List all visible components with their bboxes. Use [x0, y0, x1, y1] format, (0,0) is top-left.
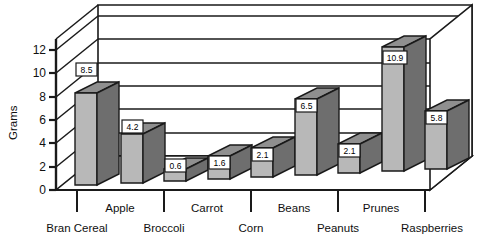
y-tick-label: 10: [33, 66, 47, 80]
bar-group-bran-cereal[interactable]: 8.5: [75, 63, 119, 185]
value-label: 5.8: [431, 113, 443, 123]
y-tick-label: 8: [39, 90, 46, 104]
bar-group-apple[interactable]: 4.2: [121, 120, 165, 183]
value-label: 10.9: [387, 53, 404, 63]
bar-group-raspberries[interactable]: 5.8: [425, 100, 469, 169]
bar-side: [447, 100, 469, 169]
bar-group-beans[interactable]: 6.5: [295, 88, 339, 175]
y-tick-label: 0: [39, 183, 46, 197]
value-label: 0.6: [170, 161, 182, 171]
bar-side: [317, 88, 339, 175]
y-tick-label: 12: [33, 43, 47, 57]
value-label: 1.6: [214, 158, 226, 168]
bar-side: [97, 82, 119, 185]
value-label: 2.1: [344, 146, 356, 156]
value-label: 2.1: [257, 150, 269, 160]
chart-figure: 12 10 8 6 4 2 0 Grams 8.5 4.2: [0, 0, 493, 246]
y-axis-title: Grams: [7, 105, 19, 140]
x-category-label-beans: Beans: [278, 202, 311, 214]
x-category-label-prunes: Prunes: [363, 202, 400, 214]
y-tick-label: 2: [39, 160, 46, 174]
bar-chart-svg: 12 10 8 6 4 2 0 Grams 8.5 4.2: [0, 0, 493, 246]
y-axis-title-text: Grams: [7, 105, 19, 140]
y-tick-label: 4: [39, 136, 46, 150]
y-tick-labels: 12 10 8 6 4 2 0: [33, 43, 47, 197]
bar-side: [143, 123, 165, 183]
x-category-label-bran-cereal: Bran Cereal: [46, 222, 107, 234]
x-category-label-apple: Apple: [105, 202, 134, 214]
x-category-label-peanuts: Peanuts: [317, 222, 359, 234]
x-category-label-raspberries: Raspberries: [401, 222, 463, 234]
x-category-label-broccoli: Broccoli: [144, 222, 185, 234]
x-category-label-carrot: Carrot: [191, 202, 224, 214]
value-label: 4.2: [127, 122, 139, 132]
bar-front: [75, 93, 97, 185]
bar-front: [121, 134, 143, 183]
x-category-labels-top: Apple Carrot Beans Prunes: [105, 202, 399, 214]
x-category-labels-bottom: Bran Cereal Broccoli Corn Peanuts Raspbe…: [46, 222, 463, 234]
x-category-label-corn: Corn: [239, 222, 264, 234]
bar-group-prunes[interactable]: 10.9: [382, 36, 426, 171]
value-label: 6.5: [301, 101, 313, 111]
bar-front: [382, 47, 404, 171]
y-tick-label: 6: [39, 113, 46, 127]
value-label: 8.5: [81, 65, 93, 75]
